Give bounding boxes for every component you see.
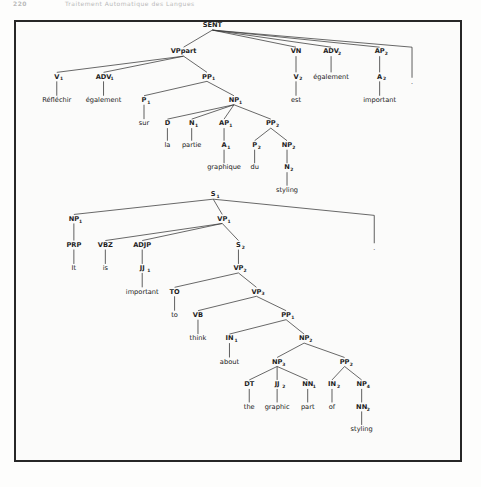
tree-node-ADJP: ADJP	[133, 241, 151, 249]
edge-VP3-to-VB	[198, 296, 256, 310]
parse-tree-french-tree: .SENTVPpartVNADV2AP2V1ADV1PP1V2également…	[42, 22, 413, 194]
tree-node-VPpart: VPpart	[171, 47, 198, 55]
tree-node-styling-fr: styling	[276, 186, 298, 194]
tree-node-NN1: NN	[302, 380, 313, 388]
tree-node-N1-subscript: 1	[195, 123, 198, 128]
tree-node-PP2-subscript: 2	[276, 123, 279, 128]
edge-SENT-to-AP2	[212, 30, 379, 47]
tree-node-VP2: VP	[233, 264, 243, 272]
tree-node-JJ2: JJ	[274, 380, 280, 388]
tree-node-IN1: IN	[225, 334, 233, 342]
tree-node-P2-subscript: 2	[258, 145, 261, 150]
tree-node-NP2: NP	[282, 141, 293, 149]
edge-NP2e-to-PP2e	[304, 343, 344, 357]
tree-node-A2-subscript: 2	[383, 76, 386, 81]
tree-node-ADV1-subscript: 1	[111, 76, 114, 81]
tree-node-NP4-subscript: 4	[367, 384, 370, 389]
tree-node-DT: DT	[244, 380, 255, 388]
edge-NP2e-to-NP3e	[277, 343, 304, 357]
tree-node-NN2: NN	[356, 403, 367, 411]
tree-node-AP2-subscript: 2	[385, 51, 388, 56]
edge-VPpart-to-V1	[57, 56, 184, 72]
tree-node-VBZ: VBZ	[98, 241, 113, 249]
edge-PP1-to-NP1	[207, 81, 234, 95]
tree-node-P1-subscript: 1	[147, 100, 150, 105]
edge-VPpart-to-PP1	[184, 56, 207, 72]
edge-VP3-to-PP1e	[256, 296, 286, 310]
sent-final-punct-mark: .	[411, 78, 413, 85]
tree-node-important-jj1: important	[126, 288, 159, 296]
tree-node-du: du	[250, 163, 258, 171]
edge-PP1e-to-NP2e	[286, 320, 304, 334]
tree-node-PP1e: PP	[281, 311, 291, 319]
tree-node-NN2-subscript: 2	[367, 407, 370, 412]
tree-node-PP1e-subscript: 1	[291, 315, 294, 320]
tree-node-egalement-adv1: également	[86, 96, 122, 104]
edge-PP2-to-P2	[255, 128, 271, 141]
tree-node-JJ1-subscript: 1	[147, 268, 150, 273]
page-folio: 220	[13, 0, 27, 7]
tree-node-VP3: VP	[251, 288, 261, 296]
tree-node-NP2-subscript: 2	[292, 145, 295, 150]
edge-S1-to-NP1e	[74, 199, 213, 214]
tree-node-AP2: AP	[375, 47, 385, 55]
edge-VP2-to-VP3	[238, 273, 256, 287]
tree-node-PP2e-subscript: 2	[350, 362, 353, 367]
tree-node-PP1-subscript: 1	[212, 76, 215, 81]
tree-node-V1-subscript: 1	[60, 76, 63, 81]
tree-node-NP4: NP	[356, 380, 367, 388]
tree-node-PP2e: PP	[340, 358, 350, 366]
tree-node-is: is	[103, 264, 109, 272]
tree-node-AP1: AP	[219, 119, 229, 127]
tree-node-D: D	[165, 119, 171, 127]
tree-node-ADV2-subscript: 2	[338, 51, 341, 56]
tree-node-NP1-subscript: 1	[239, 100, 242, 105]
tree-node-S1: S	[211, 190, 216, 198]
tree-node-IN1-subscript: 1	[235, 338, 238, 343]
tree-node-N2: N	[284, 163, 290, 171]
edge-NP1-to-PP2	[234, 105, 271, 119]
tree-node-AP1-subscript: 1	[229, 123, 232, 128]
edge-NP1-to-N1	[192, 105, 234, 119]
tree-node-PP1: PP	[202, 73, 212, 81]
running-head: 220 Traitement Automatique des Langues	[0, 0, 481, 14]
parse-tree-english-tree: .S1NP1VP1PRPVBZADJPS2ItisJJ1VP2important…	[66, 190, 375, 433]
tree-node-NP2e-subscript: 2	[309, 338, 312, 343]
tree-node-N2-subscript: 2	[290, 167, 293, 172]
tree-node-It: It	[72, 264, 77, 272]
tree-node-IN2-subscript: 2	[337, 384, 340, 389]
tree-node-graphic: graphic	[265, 403, 290, 411]
tree-node-N1: N	[189, 119, 195, 127]
tree-node-TO: TO	[169, 288, 180, 296]
edge-VP2-to-TO	[175, 273, 239, 287]
tree-node-think: think	[190, 334, 207, 342]
tree-node-graphique: graphique	[207, 163, 241, 171]
tree-node-VN: VN	[291, 47, 302, 55]
tree-node-of: of	[329, 403, 336, 411]
tree-node-NP3e-subscript: 3	[282, 362, 285, 367]
tree-node-PRP: PRP	[66, 241, 81, 249]
tree-node-la: la	[164, 141, 170, 149]
parse-tree-canvas: .SENTVPpartVNADV2AP2V1ADV1PP1V2également…	[16, 22, 460, 460]
tree-node-important-a2: important	[363, 96, 396, 104]
tree-node-Reflechir: Réfléchir	[42, 96, 71, 104]
tree-node-sur: sur	[139, 119, 150, 127]
tree-node-SENT: SENT	[203, 22, 223, 29]
tree-node-to: to	[171, 311, 178, 319]
tree-node-partie: partie	[182, 141, 202, 149]
tree-node-S2: S	[236, 241, 241, 249]
edge-PP1e-to-IN1	[229, 320, 286, 334]
tree-node-P2: P	[252, 141, 257, 149]
running-head-title: Traitement Automatique des Langues	[65, 0, 195, 7]
edge-SENT-to-VPpart	[184, 30, 213, 47]
edge-S1-to-VP1	[213, 199, 222, 214]
tree-node-P1: P	[142, 96, 147, 104]
tree-node-NP1: NP	[229, 96, 240, 104]
tree-node-styling-en: styling	[351, 425, 373, 433]
tree-node-part: part	[301, 403, 315, 411]
figure-frame: .SENTVPpartVNADV2AP2V1ADV1PP1V2également…	[14, 20, 462, 462]
tree-node-IN2: IN	[328, 380, 336, 388]
tree-node-VP1-subscript: 1	[227, 219, 230, 224]
tree-node-S2-subscript: 2	[242, 245, 245, 250]
edge-VP1-to-VBZ	[105, 223, 222, 240]
